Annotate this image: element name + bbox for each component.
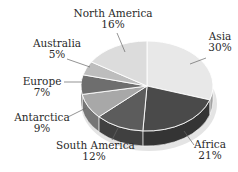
label-antarctica: Antarctica9% <box>14 112 70 134</box>
label-south-america: South America12% <box>56 140 132 162</box>
label-europe: Europe7% <box>22 76 62 98</box>
label-australia: Australia5% <box>32 38 82 60</box>
callout-line-australia <box>67 59 90 67</box>
label-north-america: North America16% <box>72 8 154 30</box>
label-asia: Asia30% <box>204 31 236 53</box>
label-africa: Africa21% <box>190 139 230 161</box>
pie-chart: North America16% Asia30% Australia5% Eur… <box>0 0 238 172</box>
